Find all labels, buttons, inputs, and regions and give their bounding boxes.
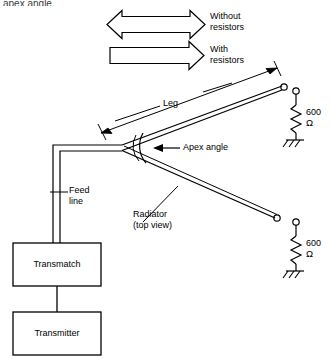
upper-termination-value: 600: [306, 107, 321, 118]
lower-termination-unit: Ω: [306, 249, 313, 260]
lower-termination-value: 600: [306, 238, 321, 249]
upper-termination-symbol: [281, 84, 304, 147]
antenna-lower-leg: [122, 146, 277, 218]
diagram-canvas: [0, 0, 332, 361]
legend-without-resistors-label-line1: Without: [210, 11, 241, 22]
upper-termination-unit: Ω: [306, 118, 313, 129]
apex-angle-label: Apex angle: [183, 142, 228, 153]
radiator-label-line1: Radiator: [133, 209, 167, 220]
antenna-diagram-figure: apex angle. Without resistors With resis…: [0, 0, 332, 361]
legend-without-resistors-label-line2: resistors: [210, 22, 244, 33]
lower-termination-symbol: [274, 215, 304, 278]
with-resistors-arrow-icon: [110, 42, 204, 70]
transmatch-label: Transmatch: [13, 259, 101, 270]
feed-line-label-line1: Feed: [69, 185, 90, 196]
without-resistors-arrow-icon: [107, 11, 205, 39]
transmitter-label: Transmitter: [13, 328, 101, 339]
leg-label-leader-right: [203, 83, 232, 92]
apex-angle-pointer: [153, 144, 180, 152]
legend-with-resistors-label-line1: With: [210, 44, 228, 55]
legend-with-resistors-label-line2: resistors: [210, 55, 244, 66]
feed-line-label-line2: line: [69, 196, 83, 207]
page-title-fragment: apex angle.: [3, 0, 55, 6]
radiator-label-line2: (top view): [133, 220, 172, 231]
leg-label: Leg: [163, 98, 178, 109]
